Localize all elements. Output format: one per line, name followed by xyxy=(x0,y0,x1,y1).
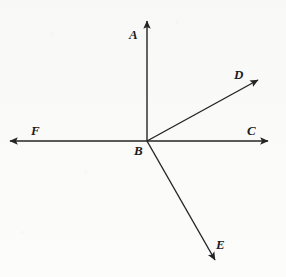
point-label-b: B xyxy=(134,144,143,157)
ray-diagram-figure: A D C F B E xyxy=(0,0,286,277)
ray-e xyxy=(147,141,215,260)
point-label-d: D xyxy=(234,68,243,81)
ray-canvas xyxy=(0,0,286,277)
point-label-c: C xyxy=(247,124,256,137)
ray-group xyxy=(10,21,268,260)
ray-d xyxy=(147,80,258,141)
point-label-a: A xyxy=(129,28,138,41)
point-label-f: F xyxy=(31,124,40,137)
point-label-e: E xyxy=(216,238,225,251)
